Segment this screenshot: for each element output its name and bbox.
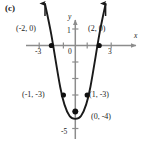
y-axis-label: y [68,13,71,21]
y-axis [72,20,78,139]
point-left [61,92,66,97]
y-tick-label-1: 1 [67,27,71,35]
annotation-right-point: (1, -3) [89,91,109,99]
x-tick-label-neg3: -3 [35,48,41,56]
plot-canvas [0,0,149,149]
x-axis [26,42,136,48]
annotation-vertex: (0, -4) [91,113,111,121]
origin-label: 0 [68,48,72,56]
annotation-left-root: (-2, 0) [16,25,36,33]
annotation-left-point: (-1, -3) [22,91,45,99]
point-vertex [72,109,78,115]
y-tick-label-neg5: -5 [61,128,67,136]
annotation-right-root: (2, 0) [88,25,105,33]
parabola-figure: (c) [0,0,149,149]
x-axis-label: x [134,32,137,40]
point-right-root [97,43,102,48]
x-tick-label-3: 3 [108,48,112,56]
point-left-root [49,43,54,48]
